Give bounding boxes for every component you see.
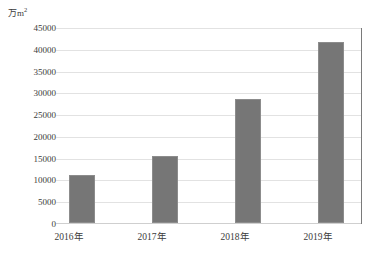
x-tick-label-2017: 2017年 <box>112 232 192 243</box>
y-axis-right-spine <box>361 28 362 224</box>
bar-2016 <box>69 175 95 223</box>
bar-2017 <box>152 156 178 223</box>
gridline-10000 <box>56 180 362 181</box>
gridline-baseline-0 <box>56 223 362 224</box>
y-tick-label-25000: 25000 <box>10 111 56 120</box>
y-tick-label-20000: 20000 <box>10 133 56 142</box>
gridline-35000 <box>56 72 362 73</box>
y-tick-label-10000: 10000 <box>10 176 56 185</box>
gridline-15000 <box>56 159 362 160</box>
x-tick-label-2019: 2019年 <box>278 232 358 243</box>
y-axis-unit-label: 万m2 <box>8 8 27 19</box>
gridline-20000 <box>56 137 362 138</box>
bar-chart: 万m2 45000 40000 35000 30000 25000 20000 … <box>0 0 380 258</box>
y-axis-unit-superscript: 2 <box>24 6 27 13</box>
y-tick-label-45000: 45000 <box>10 24 56 33</box>
y-tick-label-40000: 40000 <box>10 46 56 55</box>
y-tick-label-0: 0 <box>10 220 56 229</box>
bar-2019 <box>318 42 344 223</box>
x-tick-label-2016: 2016年 <box>29 232 109 243</box>
gridline-25000 <box>56 115 362 116</box>
y-tick-label-15000: 15000 <box>10 155 56 164</box>
gridline-5000 <box>56 202 362 203</box>
plot-area <box>56 28 362 224</box>
y-tick-label-35000: 35000 <box>10 68 56 77</box>
gridline-45000 <box>56 28 362 29</box>
y-axis-unit-text: 万m <box>8 8 24 18</box>
x-tick-label-2018: 2018年 <box>195 232 275 243</box>
y-tick-label-30000: 30000 <box>10 89 56 98</box>
y-tick-label-5000: 5000 <box>10 198 56 207</box>
bar-2018 <box>235 99 261 223</box>
gridline-30000 <box>56 93 362 94</box>
gridline-40000 <box>56 50 362 51</box>
